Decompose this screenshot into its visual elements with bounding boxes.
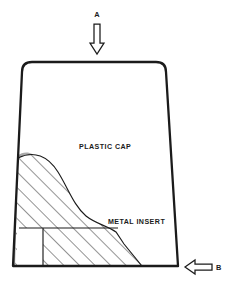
technical-drawing-svg: PLASTIC CAP METAL INSERT A B [0,0,227,285]
figure-container: PLASTIC CAP METAL INSERT A B [0,0,227,285]
arrow-a-label: A [94,10,100,19]
label-plastic-cap: PLASTIC CAP [79,143,131,151]
label-metal-insert: METAL INSERT [108,218,165,226]
arrow-a-down-icon [90,24,104,54]
arrow-b-label: B [216,263,221,272]
arrow-b-left-icon [185,260,212,274]
